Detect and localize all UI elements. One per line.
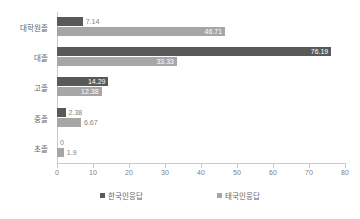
x-axis-tick-label: 70 — [305, 169, 313, 176]
x-axis-tick-label: 30 — [161, 169, 169, 176]
bar-value-label: 7.14 — [86, 17, 100, 26]
x-axis-tick-label: 10 — [89, 169, 97, 176]
bar-value-label: 76.19 — [311, 47, 329, 56]
bar-thai[interactable]: 1.9 — [57, 148, 64, 157]
x-axis-tick-label: 50 — [233, 169, 241, 176]
bar-korean[interactable]: 76.19 — [57, 47, 331, 56]
x-axis-tick-label: 40 — [197, 169, 205, 176]
legend-label: 한국인응답 — [108, 190, 143, 201]
bar-value-label: 33.33 — [156, 57, 174, 66]
chart-legend: 한국인응답 태국인응답 — [0, 190, 360, 201]
x-axis-tick — [309, 164, 310, 168]
bar-thai[interactable]: 6.67 — [57, 118, 81, 127]
category-label: 대학원졸 — [0, 22, 48, 33]
x-axis-tick — [273, 164, 274, 168]
bar-value-label: 2.38 — [69, 108, 83, 117]
category-row: 고졸14.2912.38 — [57, 72, 345, 102]
bar-thai[interactable]: 33.33 — [57, 57, 177, 66]
bar-value-label: 0 — [60, 138, 64, 147]
x-axis-tick-label: 0 — [55, 169, 59, 176]
category-row: 중졸2.386.67 — [57, 103, 345, 133]
legend-swatch-icon — [100, 193, 105, 198]
category-label: 고졸 — [0, 82, 48, 93]
category-row: 초졸01.9 — [57, 133, 345, 163]
category-label: 중졸 — [0, 113, 48, 124]
bar-value-label: 6.67 — [84, 118, 98, 127]
legend-item-thai[interactable]: 태국인응답 — [217, 190, 260, 201]
legend-item-korean[interactable]: 한국인응답 — [100, 190, 143, 201]
category-label: 초졸 — [0, 143, 48, 154]
bar-value-label: 14.29 — [88, 77, 106, 86]
bar-thai[interactable]: 12.38 — [57, 87, 102, 96]
legend-label: 태국인응답 — [225, 190, 260, 201]
category-row: 대학원졸7.1446.71 — [57, 12, 345, 42]
x-axis-tick — [237, 164, 238, 168]
bar-value-label: 12.38 — [81, 87, 99, 96]
legend-swatch-icon — [217, 193, 222, 198]
bar-thai[interactable]: 46.71 — [57, 27, 225, 36]
x-axis-tick — [93, 164, 94, 168]
bar-value-label: 1.9 — [67, 148, 77, 157]
bar-korean[interactable]: 2.38 — [57, 108, 66, 117]
x-axis-tick-label: 80 — [341, 169, 349, 176]
bar-chart: 대학원졸7.1446.71대졸76.1933.33고졸14.2912.38중졸2… — [0, 0, 360, 219]
x-axis-tick-label: 20 — [125, 169, 133, 176]
bar-korean[interactable]: 14.29 — [57, 77, 108, 86]
x-axis-tick — [129, 164, 130, 168]
category-label: 대졸 — [0, 52, 48, 63]
x-axis-tick — [345, 164, 346, 168]
x-axis-tick-label: 60 — [269, 169, 277, 176]
x-axis-tick — [165, 164, 166, 168]
plot-area: 대학원졸7.1446.71대졸76.1933.33고졸14.2912.38중졸2… — [57, 12, 345, 163]
x-axis-tick — [201, 164, 202, 168]
x-axis-tick — [57, 164, 58, 168]
bar-value-label: 46.71 — [205, 27, 223, 36]
category-row: 대졸76.1933.33 — [57, 42, 345, 72]
bar-korean[interactable]: 7.14 — [57, 17, 83, 26]
